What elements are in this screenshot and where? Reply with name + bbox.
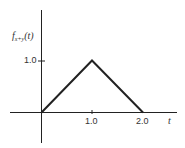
y-tick-label: 1.0	[24, 56, 37, 65]
y-axis-label: fx+y(t)	[12, 31, 34, 42]
x-tick-label-1: 1.0	[85, 117, 98, 126]
density-line	[42, 61, 144, 113]
x-tick-label-2: 2.0	[136, 117, 149, 126]
triangular-density-chart: fx+y(t) 1.0 1.0 2.0 t	[0, 0, 185, 148]
x-axis-label: t	[168, 116, 171, 126]
